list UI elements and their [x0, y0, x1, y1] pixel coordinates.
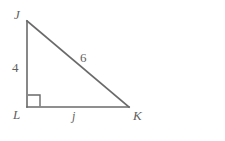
- vertex-label-k: K: [133, 109, 142, 122]
- segment-jk-hypotenuse: [27, 21, 129, 107]
- right-angle-square-icon: [28, 95, 40, 106]
- side-length-label-lk: j: [72, 110, 75, 122]
- vertex-label-l: L: [13, 108, 20, 121]
- right-triangle-figure: J L K 4 6 j: [0, 0, 225, 141]
- side-length-label-jk: 6: [80, 51, 87, 64]
- vertex-label-j: J: [14, 8, 20, 21]
- triangle-drawing: [0, 0, 225, 141]
- side-length-label-jl: 4: [12, 61, 19, 74]
